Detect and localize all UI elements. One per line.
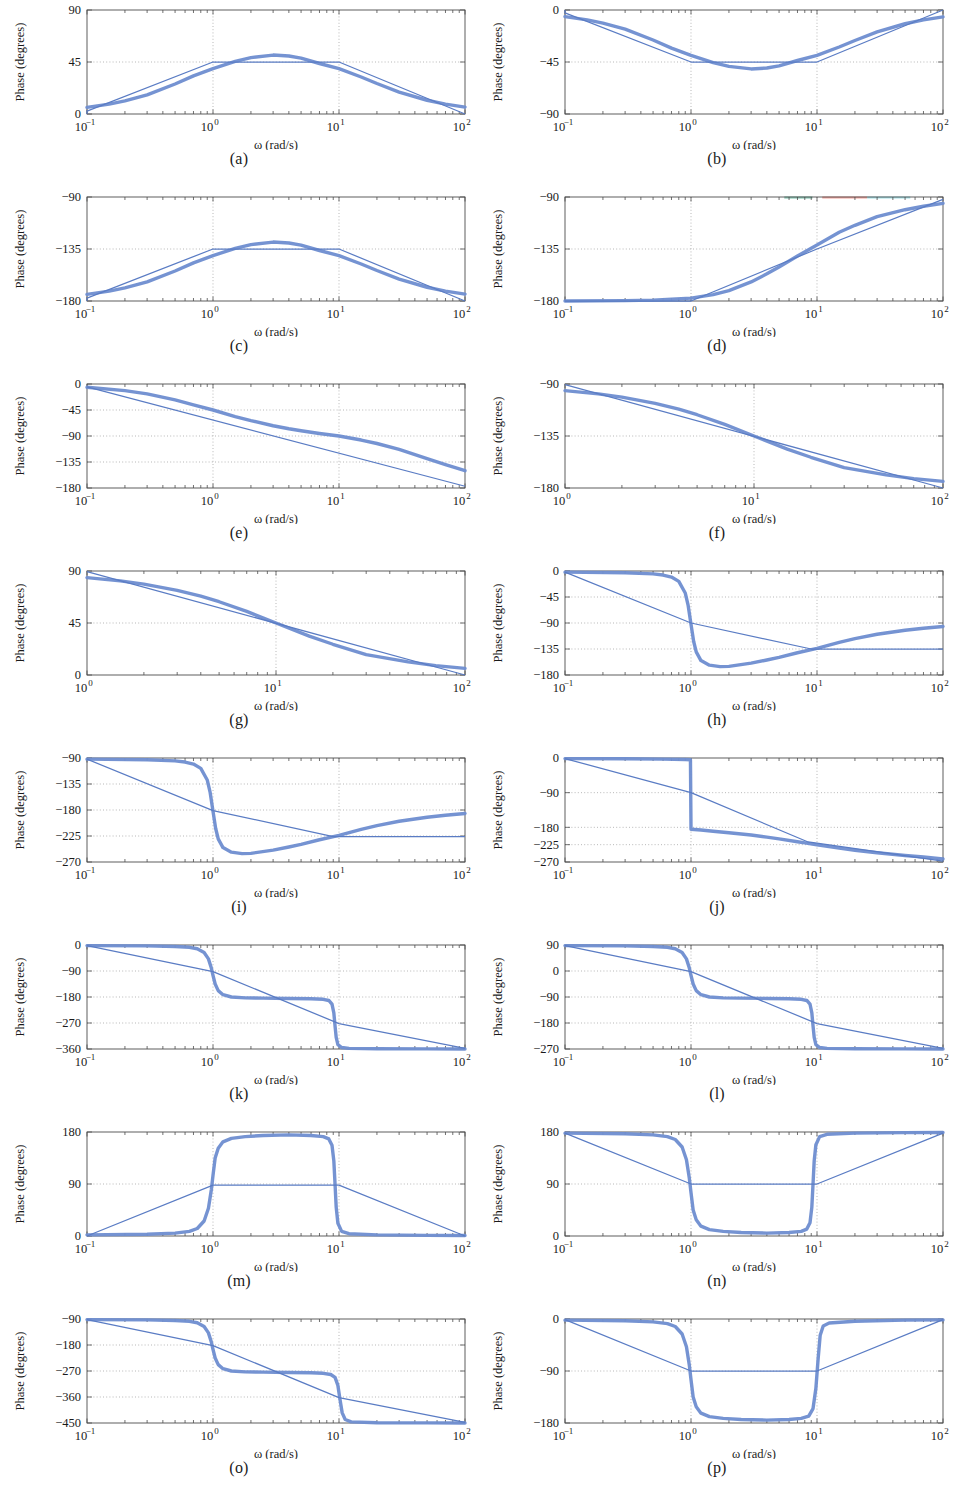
panel-caption-j: (j) [709,899,725,915]
asymptote-line [565,1320,943,1371]
plot-svg-m: 09018010−1100101102ω (rad/s)Phase (degre… [4,1122,474,1272]
panel-caption-o: (o) [229,1460,248,1476]
x-tick-label: 101 [327,1239,345,1256]
gridlines-i [87,758,465,862]
x-tick-exponent: 1 [818,117,823,127]
x-tick-base: 10 [805,1429,818,1443]
asymptote-line [565,572,943,649]
x-tick-base: 10 [679,868,692,882]
y-tick-label: 45 [69,616,82,630]
x-tick-exponent: 0 [214,865,219,875]
y-tick-label: −270 [55,1364,81,1378]
x-tick-base: 10 [931,120,944,134]
x-tick-exponent: 0 [214,1426,219,1436]
y-tick-label: 0 [75,377,81,391]
x-axis-b: 10−1100101102 [553,117,949,134]
asymptote-line [87,1320,465,1423]
y-tick-label: −180 [55,1338,81,1352]
x-tick-exponent: 1 [340,304,345,314]
y-axis-label: Phase (degrees) [491,1145,505,1224]
y-axis-label: Phase (degrees) [13,397,27,476]
x-tick-exponent: 0 [214,491,219,501]
x-axis-o: 10−1100101102 [75,1426,471,1443]
plot-svg-g: 04590100101102ω (rad/s)Phase (degrees) [4,561,474,711]
x-axis-label: ω (rad/s) [732,1447,776,1459]
series-group-b [565,10,943,69]
y-tick-label: −225 [533,838,559,852]
x-axis-label: ω (rad/s) [254,1073,298,1085]
x-tick-exponent: 1 [340,865,345,875]
x-tick-exponent: 0 [214,1239,219,1249]
x-tick-label: 102 [931,117,949,134]
plot-svg-h: −180−135−90−45010−1100101102ω (rad/s)Pha… [482,561,952,711]
y-axis-label: Phase (degrees) [13,1332,27,1411]
x-axis-label: ω (rad/s) [254,325,298,337]
x-tick-exponent: 2 [466,491,471,501]
y-tick-label: −180 [55,990,81,1004]
bode-phase-panel-p: −180−90010−1100101102ω (rad/s)Phase (deg… [478,1309,956,1496]
x-tick-base: 10 [453,120,466,134]
panel-grid: 0459010−1100101102ω (rad/s)Phase (degree… [0,0,957,1496]
panel-caption-a: (a) [230,151,248,167]
y-tick-label: 0 [553,751,559,765]
y-axis-label: Phase (degrees) [13,1145,27,1224]
x-tick-label: 101 [805,678,823,695]
plot-svg-f: −180−135−90100101102ω (rad/s)Phase (degr… [482,374,952,524]
x-axis-label: ω (rad/s) [732,699,776,711]
x-axis-m: 10−1100101102 [75,1239,471,1256]
asymptote-line [87,249,465,301]
x-tick-label: 102 [453,491,471,508]
plot-svg-n: 09018010−1100101102ω (rad/s)Phase (degre… [482,1122,952,1272]
plot-area-e: −180−135−90−45010−1100101102ω (rad/s)Pha… [4,374,474,524]
x-tick-base: 10 [805,120,818,134]
x-tick-label: 100 [679,304,698,321]
x-axis-label: ω (rad/s) [254,512,298,524]
x-tick-base: 10 [931,1055,944,1069]
bode-phase-panel-g: 04590100101102ω (rad/s)Phase (degrees)(g… [0,561,478,748]
x-tick-label: 101 [327,865,345,882]
bode-phase-panel-f: −180−135−90100101102ω (rad/s)Phase (degr… [478,374,956,561]
x-tick-exponent: 2 [944,678,949,688]
y-tick-label: −135 [533,429,559,443]
exact-phase-curve [565,203,943,301]
x-tick-exponent: −1 [564,1239,574,1249]
x-tick-exponent: −1 [86,1052,96,1062]
x-tick-base: 10 [453,868,466,882]
x-tick-base: 10 [327,307,340,321]
asymptote-line [87,62,465,114]
y-tick-label: 0 [553,1312,559,1326]
x-tick-label: 100 [75,678,94,695]
x-tick-label: 102 [931,1239,949,1256]
x-axis-f: 100101102 [553,491,949,508]
plot-svg-j: −270−225−180−90010−1100101102ω (rad/s)Ph… [482,748,952,898]
bode-phase-panel-a: 0459010−1100101102ω (rad/s)Phase (degree… [0,0,478,187]
plot-area-i: −270−225−180−135−9010−1100101102ω (rad/s… [4,748,474,898]
x-tick-exponent: 0 [692,865,697,875]
x-tick-label: 100 [679,1426,698,1443]
x-tick-exponent: 2 [944,865,949,875]
x-tick-exponent: −1 [86,865,96,875]
x-tick-base: 10 [805,307,818,321]
x-tick-base: 10 [931,681,944,695]
y-tick-label: −90 [539,990,559,1004]
y-tick-label: −180 [55,803,81,817]
x-tick-exponent: 1 [818,304,823,314]
x-tick-exponent: 1 [277,678,282,688]
x-tick-exponent: 2 [944,1239,949,1249]
x-tick-label: 101 [264,678,282,695]
x-tick-base: 10 [327,1055,340,1069]
x-tick-exponent: 0 [692,678,697,688]
y-tick-label: −90 [61,964,81,978]
y-tick-label: 90 [69,1177,82,1191]
x-axis-i: 10−1100101102 [75,865,471,882]
plot-svg-i: −270−225−180−135−9010−1100101102ω (rad/s… [4,748,474,898]
x-tick-label: 100 [201,1052,220,1069]
series-group-i [87,759,465,853]
y-tick-label: −135 [55,455,81,469]
x-tick-exponent: −1 [564,1052,574,1062]
plot-area-a: 0459010−1100101102ω (rad/s)Phase (degree… [4,0,474,150]
x-tick-label: 10−1 [553,304,574,321]
plot-svg-p: −180−90010−1100101102ω (rad/s)Phase (deg… [482,1309,952,1459]
x-tick-exponent: 0 [692,1239,697,1249]
y-tick-label: −135 [55,777,81,791]
